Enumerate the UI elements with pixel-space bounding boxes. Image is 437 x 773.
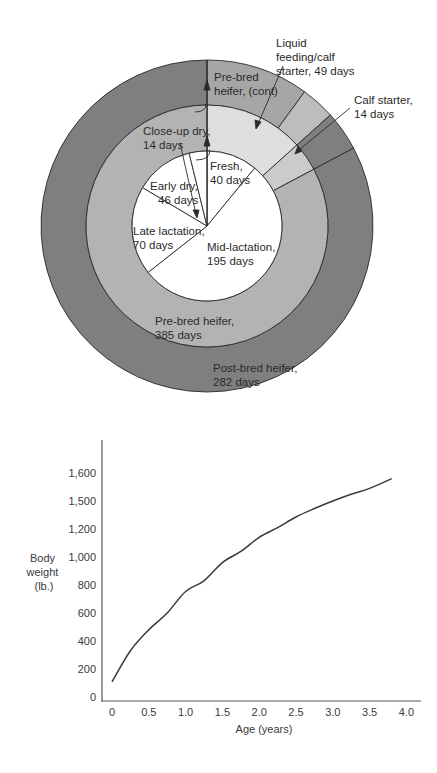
figure-canvas: Liquid feeding/calf starter, 49 days Cal… [0,0,437,773]
label-late-lactation-line2: 70 days [133,239,174,251]
label-mid-lactation: Mid-lactation, [207,241,275,253]
y-tick-labels: 02004006008001,0001,2001,5001,600 [68,467,96,703]
body-weight-curve [112,479,392,682]
y-tick-label: 200 [78,663,96,675]
y-tick-label: 1,500 [68,495,96,507]
label-calf-starter: Calf starter, [354,94,413,106]
life-cycle-donut [41,60,373,392]
label-prebred-cont-line2: heifer, (cont) [214,85,278,97]
x-tick-label: 1.0 [178,706,193,718]
x-axis-label: Age (years) [236,723,293,735]
y-tick-label: 400 [78,635,96,647]
y-axis-label: Body weight (lb.) [26,552,62,592]
label-close-up-dry: Close-up dry, [143,125,211,137]
label-close-up-dry-line2: 14 days [143,139,184,151]
label-fresh: Fresh, [210,160,243,172]
label-liquid-feeding: Liquid [276,37,307,49]
y-tick-label: 1,200 [68,523,96,535]
y-tick-label: 800 [78,579,96,591]
x-tick-labels: 00.51.01.52.02.53.03.54.0 [109,706,414,718]
y-tick-label: 1,000 [68,551,96,563]
label-prebred-heifer-line2: 385 days [155,329,202,341]
x-tick-label: 3.5 [362,706,377,718]
y-tick-label: 1,600 [68,467,96,479]
label-postbred-heifer: Post-bred heifer, [213,362,297,374]
label-prebred-heifer: Pre-bred heifer, [155,315,234,327]
label-liquid-feeding-line2: feeding/calf [276,51,336,63]
y-tick-label: 0 [90,691,96,703]
x-tick-label: 0 [109,706,115,718]
label-liquid-feeding-line3: starter, 49 days [276,65,355,77]
label-fresh-line2: 40 days [210,174,251,186]
x-tick-label: 2.0 [252,706,267,718]
label-late-lactation: Late lactation, [133,225,205,237]
label-calf-starter-line2: 14 days [354,108,395,120]
label-mid-lactation-line2: 195 days [207,255,254,267]
x-tick-label: 2.5 [288,706,303,718]
x-tick-label: 4.0 [399,706,414,718]
x-tick-label: 3.0 [325,706,340,718]
label-prebred-cont: Pre-bred [214,71,259,83]
x-tick-label: 0.5 [141,706,156,718]
x-tick-label: 1.5 [215,706,230,718]
body-weight-chart: 02004006008001,0001,2001,5001,600 00.51.… [26,440,421,735]
y-tick-label: 600 [78,607,96,619]
label-postbred-heifer-line2: 282 days [213,376,260,388]
